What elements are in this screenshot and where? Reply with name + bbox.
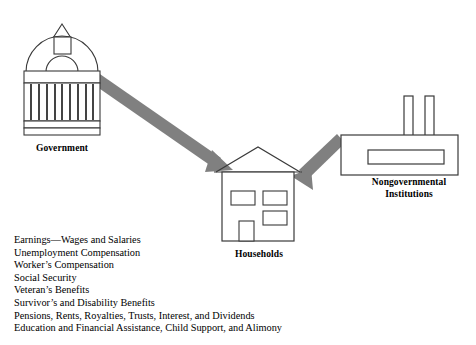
government-label: Government: [0, 143, 124, 155]
list-item: Social Security: [14, 272, 282, 285]
list-item: Survivor’s and Disability Benefits: [14, 297, 282, 310]
diagram-canvas: Government Households Nongovernmental In…: [0, 0, 476, 345]
nongovernmental-label-line1: Nongovernmental: [372, 177, 446, 187]
house-icon: [214, 147, 302, 241]
list-item: Worker’s Compensation: [14, 259, 282, 272]
government-building-icon: [24, 24, 100, 135]
list-item: Veteran’s Benefits: [14, 284, 282, 297]
factory-icon: [341, 96, 458, 175]
list-item: Pensions, Rents, Royalties, Trusts, Inte…: [14, 310, 282, 323]
list-item: Education and Financial Assistance, Chil…: [14, 322, 282, 335]
arrow-nongovernmental-to-households: [291, 134, 345, 190]
list-item: Earnings—Wages and Salaries: [14, 234, 282, 247]
nongovernmental-label: Nongovernmental Institutions: [348, 177, 470, 200]
nongovernmental-label-line2: Institutions: [385, 189, 433, 199]
list-item: Unemployment Compensation: [14, 247, 282, 260]
income-sources-list: Earnings—Wages and Salaries Unemployment…: [14, 234, 282, 335]
arrow-government-to-households: [90, 72, 233, 172]
